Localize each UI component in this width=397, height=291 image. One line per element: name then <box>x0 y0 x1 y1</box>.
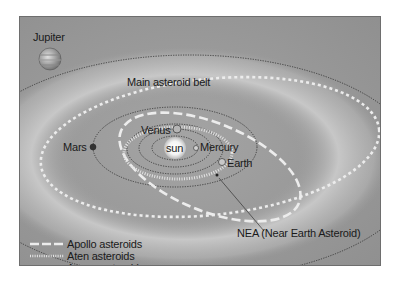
legend-amore-label: Amore asteroids <box>67 262 144 266</box>
jupiter-planet <box>39 48 61 70</box>
label-nea: NEA (Near Earth Asteroid) <box>237 227 360 239</box>
venus-planet <box>173 125 181 133</box>
mercury-planet <box>194 146 199 151</box>
label-sun: sun <box>166 142 183 154</box>
mars-planet <box>90 144 96 150</box>
label-mars: Mars <box>63 141 87 153</box>
earth-planet <box>219 159 226 166</box>
solar-system-diagram: Jupiter Main asteroid belt Venus sun Mer… <box>19 16 381 266</box>
legend-aten-label: Aten asteroids <box>67 250 135 262</box>
label-main-belt: Main asteroid belt <box>127 76 210 88</box>
label-earth: Earth <box>227 157 252 169</box>
legend-apollo-label: Apollo asteroids <box>67 238 142 250</box>
label-venus: Venus <box>141 124 171 136</box>
label-mercury: Mercury <box>200 141 238 153</box>
nea-asteroid <box>216 174 219 177</box>
label-jupiter: Jupiter <box>33 31 65 43</box>
